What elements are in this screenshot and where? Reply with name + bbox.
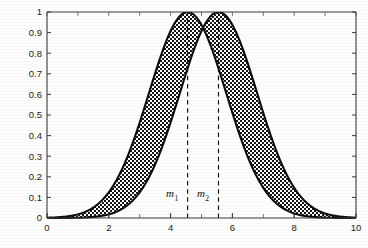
x-tick-label: 0	[44, 222, 49, 233]
y-tick-label: 0.7	[29, 68, 42, 79]
y-tick-label: 0	[37, 212, 42, 223]
y-tick-label: 0.4	[29, 130, 42, 141]
y-tick-label: 0.9	[29, 27, 42, 38]
membership-function-plot: 00.10.20.30.40.50.60.70.80.91 0246810 m1…	[0, 0, 368, 248]
y-tick-label: 0.2	[29, 171, 42, 182]
x-tick-label: 8	[292, 222, 297, 233]
figure-container: 00.10.20.30.40.50.60.70.80.91 0246810 m1…	[0, 0, 368, 248]
x-tick-label: 4	[168, 222, 173, 233]
y-tick-label: 0.3	[29, 151, 42, 162]
y-tick-label: 0.5	[29, 109, 42, 120]
y-tick-label: 0.1	[29, 192, 42, 203]
x-tick-label: 6	[230, 222, 235, 233]
y-tick-label: 1	[37, 6, 42, 17]
x-tick-label: 10	[351, 222, 362, 233]
x-tick-label: 2	[106, 222, 111, 233]
y-tick-label: 0.8	[29, 48, 42, 59]
y-tick-label: 0.6	[29, 89, 42, 100]
